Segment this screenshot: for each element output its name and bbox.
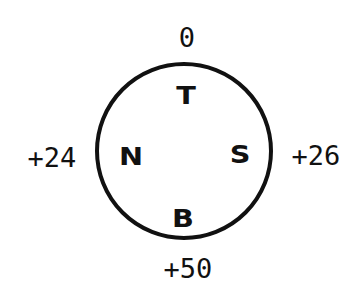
- circle-diagram: 0 +24 +26 +50 T N S B: [0, 0, 356, 300]
- label-top-value: 0: [179, 24, 195, 51]
- inner-letter-right: S: [230, 142, 251, 167]
- inner-letter-left: N: [119, 144, 143, 169]
- inner-letter-top: T: [176, 83, 196, 108]
- label-bottom-value: +50: [164, 255, 213, 282]
- inner-letter-bottom: B: [172, 206, 194, 231]
- label-left-value: +24: [28, 144, 77, 171]
- label-right-value: +26: [292, 142, 341, 169]
